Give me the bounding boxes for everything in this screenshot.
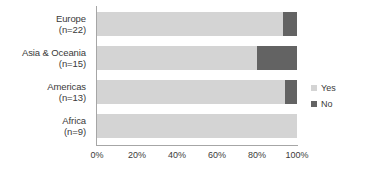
bar-segment-yes (97, 114, 297, 138)
category-label-asia-oceania: Asia & Oceania (n=15) (2, 47, 86, 69)
category-count: (n=13) (2, 92, 86, 103)
bar-row (97, 114, 297, 138)
category-label-americas: Americas (n=13) (2, 81, 86, 103)
bar-row (97, 80, 297, 104)
stacked-bar-chart: Europe (n=22) Asia & Oceania (n=15) Amer… (0, 0, 369, 177)
category-count: (n=22) (2, 24, 86, 35)
category-name: Asia & Oceania (2, 47, 86, 58)
legend-swatch-icon (311, 101, 317, 107)
bar-segment-no (285, 80, 297, 104)
category-label-europe: Europe (n=22) (2, 13, 86, 35)
category-count: (n=9) (2, 126, 86, 137)
x-tick-label: 80% (237, 150, 277, 160)
x-tick-label: 60% (197, 150, 237, 160)
x-tick-label: 20% (117, 150, 157, 160)
x-tick-label: 0% (77, 150, 117, 160)
category-name: Americas (2, 81, 86, 92)
x-tick-label: 100% (277, 150, 317, 160)
bar-segment-no (257, 46, 297, 70)
x-axis-line (96, 145, 298, 146)
category-label-africa: Africa (n=9) (2, 115, 86, 137)
legend-item-yes: Yes (311, 80, 336, 96)
legend-item-no: No (311, 96, 336, 112)
category-count: (n=15) (2, 58, 86, 69)
legend-label: No (321, 99, 333, 109)
legend-label: Yes (321, 83, 336, 93)
plot-area (97, 8, 297, 144)
bar-segment-yes (97, 80, 285, 104)
bar-row (97, 46, 297, 70)
category-name: Africa (2, 115, 86, 126)
bar-segment-yes (97, 46, 257, 70)
legend-swatch-icon (311, 85, 317, 91)
category-name: Europe (2, 13, 86, 24)
x-tick-label: 40% (157, 150, 197, 160)
bar-segment-no (283, 12, 297, 36)
bar-row (97, 12, 297, 36)
legend: Yes No (311, 80, 336, 112)
bar-segment-yes (97, 12, 283, 36)
